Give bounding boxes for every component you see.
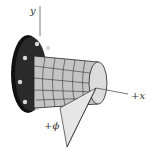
shaft bbox=[34, 56, 107, 108]
y-axis-label: y bbox=[29, 5, 36, 16]
x-axis-label: +x bbox=[131, 90, 145, 101]
angle-label: +ϕ bbox=[44, 120, 59, 131]
bolt-hole bbox=[35, 42, 39, 46]
bolt-hole bbox=[23, 56, 27, 60]
bolt-hole bbox=[46, 46, 50, 50]
bolt-hole bbox=[18, 80, 22, 84]
torsion-diagram: y +x +ϕ bbox=[0, 0, 153, 161]
bolt-hole bbox=[23, 100, 27, 104]
shaft-end-face bbox=[89, 62, 107, 104]
